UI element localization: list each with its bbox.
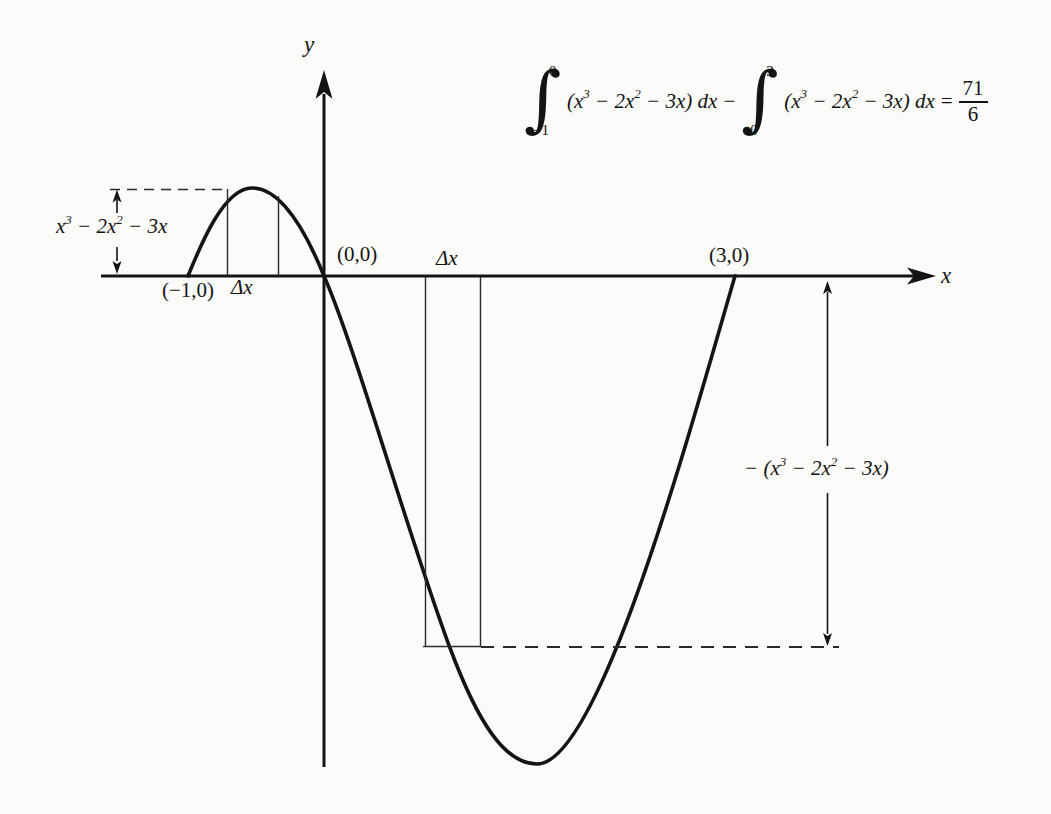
integral-1: ∫ 0 −1 [524, 62, 562, 140]
x-axis [101, 268, 936, 285]
cubic-curve [188, 188, 735, 764]
integral-1-lower-limit: −1 [533, 122, 549, 139]
height-expression-label: x3 − 2x2 − 3x [56, 215, 167, 238]
arrow-down-icon [113, 261, 122, 274]
integrand-2: (x3 − 2x2 − 3x) dx [784, 89, 934, 114]
integral-2: ∫ 3 0 [741, 62, 779, 140]
fraction-denominator: 6 [968, 103, 979, 126]
minus-operator: − [722, 89, 736, 114]
right-root-point-label: (3,0) [709, 244, 749, 267]
left-root-point-label: (−1,0) [162, 279, 214, 302]
depth-expression-label: − (x3 − 2x2 − 3x) [744, 457, 889, 480]
arrow-down-icon [823, 633, 832, 646]
delta-x-label-right: Δx [436, 247, 458, 270]
sample-rectangle-above [228, 189, 279, 276]
delta-x-label-left: Δx [231, 276, 253, 299]
integrand-1: (x3 − 2x2 − 3x) dx [567, 89, 717, 114]
equals-sign: = [940, 89, 954, 114]
fraction-numerator: 71 [959, 77, 988, 103]
integral-2-upper-limit: 3 [766, 63, 774, 80]
y-axis-label: y [304, 32, 314, 57]
integral-area-figure: y x (0,0) (−1,0) (3,0) Δx Δx x3 − 2x2 − … [0, 0, 1051, 814]
integral-1-upper-limit: 0 [549, 63, 557, 80]
origin-point-label: (0,0) [337, 243, 377, 266]
x-axis-label: x [941, 263, 951, 288]
y-axis [316, 70, 333, 767]
integral-2-lower-limit: 0 [750, 122, 758, 139]
textbook-figure-page: y x (0,0) (−1,0) (3,0) Δx Δx x3 − 2x2 − … [0, 0, 1051, 814]
result-fraction: 71 6 [959, 77, 988, 125]
net-area-equation: ∫ 0 −1 (x3 − 2x2 − 3x) dx − ∫ 3 0 (x3 − … [524, 62, 988, 140]
